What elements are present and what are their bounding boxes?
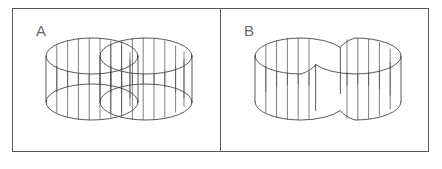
figure-container: A [0,0,442,169]
panel-b-label: B [244,22,255,39]
cylinder-diagram: A [0,0,442,169]
panel-a-label: A [36,22,47,39]
